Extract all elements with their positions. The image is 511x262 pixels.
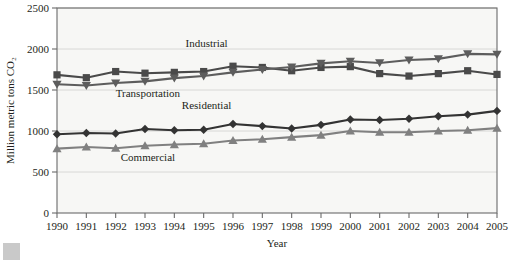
x-axis-tick-label: 1996	[222, 220, 245, 232]
y-axis-tick-label: 500	[33, 166, 50, 178]
series-annotation-commercial: Commercial	[121, 151, 175, 163]
x-axis-tick-label: 1995	[193, 220, 216, 232]
x-axis-tick-label: 1991	[75, 220, 97, 232]
co2-emissions-line-chart: 0500100015002000250019901991199219931994…	[0, 0, 511, 262]
data-point-marker	[464, 67, 471, 74]
data-point-marker	[435, 70, 442, 77]
y-axis-tick-label: 1000	[27, 125, 50, 137]
x-axis-title: Year	[267, 237, 288, 249]
y-axis-tick-label: 1500	[27, 84, 50, 96]
x-axis-tick-label: 2003	[427, 220, 450, 232]
y-axis-tick-label: 2500	[27, 2, 50, 14]
x-axis-tick-label: 1994	[163, 220, 186, 232]
y-axis-tick-label: 2000	[27, 43, 50, 55]
x-axis-tick-label: 1992	[105, 220, 127, 232]
x-axis-tick-label: 1998	[281, 220, 304, 232]
data-point-marker	[141, 70, 148, 77]
x-axis-tick-label: 2002	[398, 220, 420, 232]
data-point-marker	[229, 63, 236, 70]
data-point-marker	[376, 70, 383, 77]
series-annotation-residential: Residential	[182, 99, 232, 111]
data-point-marker	[83, 74, 90, 81]
x-axis-tick-label: 1999	[310, 220, 333, 232]
x-axis-tick-label: 1997	[251, 220, 274, 232]
chart-canvas: 0500100015002000250019901991199219931994…	[0, 0, 511, 262]
data-point-marker	[53, 71, 60, 78]
x-axis-tick-label: 2004	[457, 220, 480, 232]
x-axis-tick-label: 2001	[369, 220, 391, 232]
y-axis-tick-label: 0	[44, 207, 50, 219]
series-annotation-transportation: Transportation	[116, 87, 181, 99]
series-annotation-industrial: Industrial	[186, 37, 228, 49]
plot-area-background	[57, 8, 497, 213]
x-axis-tick-label: 1993	[134, 220, 157, 232]
y-axis-title: Million metric tons CO₂	[4, 57, 16, 164]
x-axis-tick-label: 1990	[46, 220, 69, 232]
x-axis-tick-label: 2000	[339, 220, 362, 232]
data-point-marker	[112, 68, 119, 75]
data-point-marker	[493, 71, 500, 78]
x-axis-tick-label: 2005	[486, 220, 509, 232]
data-point-marker	[405, 72, 412, 79]
page-corner-artifact	[3, 243, 20, 260]
